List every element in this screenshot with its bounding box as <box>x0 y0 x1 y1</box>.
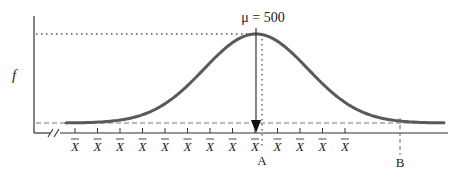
x-tick-label: X <box>340 139 350 154</box>
x-tick-label: X <box>93 139 103 154</box>
x-tick-label: X <box>318 139 328 154</box>
x-tick-label: X <box>160 139 170 154</box>
mean-arrow-icon <box>251 120 261 133</box>
point-a-label: A <box>257 153 267 168</box>
mean-label: μ = 500 <box>241 10 284 25</box>
x-tick-label: X <box>273 139 283 154</box>
normal-curve <box>66 34 444 123</box>
x-tick-label: X <box>115 139 125 154</box>
y-axis-label: f <box>12 67 18 83</box>
x-tick-label: X <box>70 139 80 154</box>
x-tick-label: X <box>138 139 148 154</box>
x-tick-label: X <box>228 139 238 154</box>
x-tick-label: X <box>295 139 305 154</box>
sampling-distribution-figure: μ = 500 A B f XXXXXXXXXXXXX <box>0 0 467 175</box>
x-tick-label: X <box>205 139 215 154</box>
point-b-label: B <box>396 155 405 170</box>
x-tick-label: X <box>183 139 193 154</box>
x-tick-label: X <box>250 139 260 154</box>
x-axis-ticks: XXXXXXXXXXXXX <box>70 128 350 154</box>
